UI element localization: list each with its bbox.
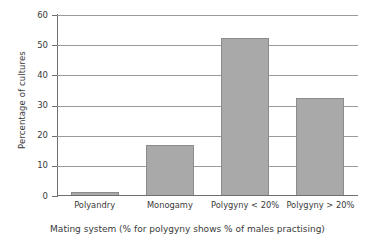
y-tick-label: 40 — [8, 71, 48, 80]
gridline — [57, 45, 358, 46]
y-tick-label: 50 — [8, 41, 48, 50]
gridline — [57, 15, 358, 16]
y-tick-label: 60 — [8, 11, 48, 20]
y-tick-label: 20 — [8, 131, 48, 140]
y-tick-label: 0 — [8, 192, 48, 201]
y-tick-label: 10 — [8, 161, 48, 170]
bar — [146, 145, 194, 196]
x-axis-baseline — [57, 195, 358, 196]
plot-area — [57, 15, 358, 196]
gridline — [57, 75, 358, 76]
x-axis-category-label: Polygyny > 20% — [260, 200, 375, 210]
x-axis-title: Mating system (% for polygyny shows % of… — [0, 224, 375, 235]
bar — [221, 38, 269, 196]
y-tick-mark — [52, 196, 57, 197]
y-tick-label: 30 — [8, 101, 48, 110]
bar-chart-figure: Percentage of cultures 0102030405060 Pol… — [0, 0, 375, 244]
bar — [296, 98, 344, 196]
